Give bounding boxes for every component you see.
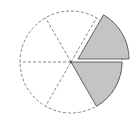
fraction-circle-diagram [0, 0, 138, 121]
circle-svg [0, 0, 138, 121]
center-point [70, 61, 72, 63]
shaded-sector-lower [71, 62, 122, 106]
shaded-sector-exploded [78, 15, 129, 59]
